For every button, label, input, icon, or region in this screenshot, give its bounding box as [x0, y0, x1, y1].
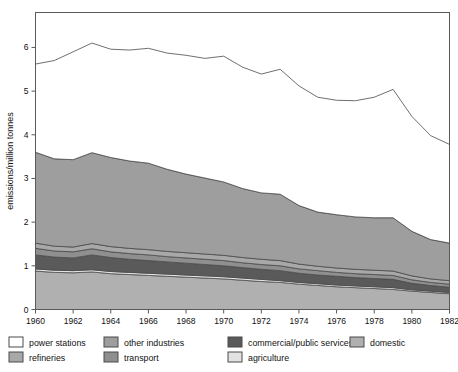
legend-swatch: [9, 337, 23, 347]
legend-label: domestic: [370, 338, 406, 348]
legend-swatch: [350, 337, 364, 347]
legend-item: agriculture: [228, 352, 289, 363]
y-tick-label: 2: [24, 217, 29, 227]
legend-swatch: [228, 352, 242, 362]
legend-label: agriculture: [248, 353, 289, 363]
y-tick-label: 0: [24, 305, 29, 315]
x-tick-label: 1970: [214, 316, 233, 326]
legend-swatch: [9, 352, 23, 362]
chart-container: 0123456 19601962196419661968197019721974…: [0, 0, 458, 372]
x-tick-label: 1972: [252, 316, 271, 326]
y-tick-label: 6: [24, 42, 29, 52]
x-tick-label: 1964: [101, 316, 120, 326]
legend-swatch: [104, 337, 118, 347]
y-tick-label: 4: [24, 130, 29, 140]
x-tick-label: 1980: [402, 316, 421, 326]
legend-item: transport: [104, 352, 159, 363]
legend-swatch: [228, 337, 242, 347]
y-tick-label: 1: [24, 261, 29, 271]
x-tick-label: 1976: [327, 316, 346, 326]
legend-item: other industries: [104, 337, 185, 348]
x-tick-label: 1962: [64, 316, 83, 326]
legend-item: power stations: [9, 337, 86, 348]
y-axis-title: emissions/million tonnes: [5, 112, 15, 210]
legend-label: commercial/public services: [248, 338, 354, 348]
legend-label: power stations: [29, 338, 86, 348]
x-tick-label: 1960: [26, 316, 45, 326]
y-tick-label: 5: [24, 86, 29, 96]
x-tick-label: 1974: [289, 316, 308, 326]
legend-item: refineries: [9, 352, 66, 363]
legend-label: transport: [124, 353, 159, 363]
y-tick-label: 3: [24, 173, 29, 183]
legend-item: domestic: [350, 337, 406, 348]
stacked-area-chart: 0123456 19601962196419661968197019721974…: [0, 0, 458, 372]
legend-label: other industries: [124, 338, 185, 348]
x-tick-label: 1966: [139, 316, 158, 326]
x-tick-label: 1968: [177, 316, 196, 326]
legend-swatch: [104, 352, 118, 362]
x-tick-label: 1978: [365, 316, 384, 326]
x-tick-label: 1982: [440, 316, 458, 326]
legend-label: refineries: [29, 353, 66, 363]
